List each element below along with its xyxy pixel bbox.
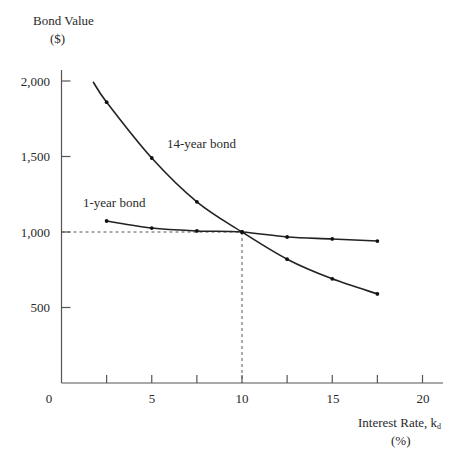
y-tick-label-1000: 1,000: [0, 226, 50, 239]
series-line-14-year-bond: [93, 82, 377, 294]
reference-lines: [62, 232, 243, 383]
x-tick-label-5: 5: [137, 392, 167, 405]
data-point-14-year-bond: [150, 156, 154, 160]
y-axis-label: Bond Value: [33, 14, 94, 27]
series-label-14-year-bond: 14-year bond: [167, 137, 236, 150]
data-point-14-year-bond: [330, 277, 334, 281]
data-point-1-year-bond: [150, 226, 154, 230]
x-axis-label-text: Interest Rate, k: [358, 415, 437, 430]
data-point-14-year-bond: [285, 257, 289, 261]
data-point-1-year-bond: [105, 219, 109, 223]
x-axis-ticks: [107, 375, 423, 383]
data-point-1-year-bond: [195, 229, 199, 233]
data-point-14-year-bond: [105, 100, 109, 104]
data-point-14-year-bond: [195, 200, 199, 204]
x-tick-label-15: 15: [318, 392, 348, 405]
series-lines: [93, 82, 379, 296]
y-tick-label-1500: 1,500: [0, 150, 50, 163]
data-point-1-year-bond: [375, 239, 379, 243]
y-tick-label-500: 500: [0, 301, 50, 314]
series-label-1-year-bond: 1-year bond: [83, 196, 145, 209]
x-axis-label-subscript: d: [437, 422, 441, 431]
data-point-1-year-bond: [330, 237, 334, 241]
x-tick-label-10: 10: [227, 392, 257, 405]
y-axis-ticks: [62, 81, 71, 308]
y-tick-label-2000: 2,000: [0, 75, 50, 88]
data-point-1-year-bond: [285, 235, 289, 239]
x-tick-label-0: 0: [34, 392, 64, 405]
x-axis-unit: (%): [391, 434, 411, 447]
x-tick-label-20: 20: [408, 392, 438, 405]
y-axis-unit: ($): [50, 32, 65, 45]
data-point-1-year-bond: [240, 230, 244, 234]
data-point-14-year-bond: [375, 292, 379, 296]
x-axis-label: Interest Rate, kd: [358, 416, 441, 431]
